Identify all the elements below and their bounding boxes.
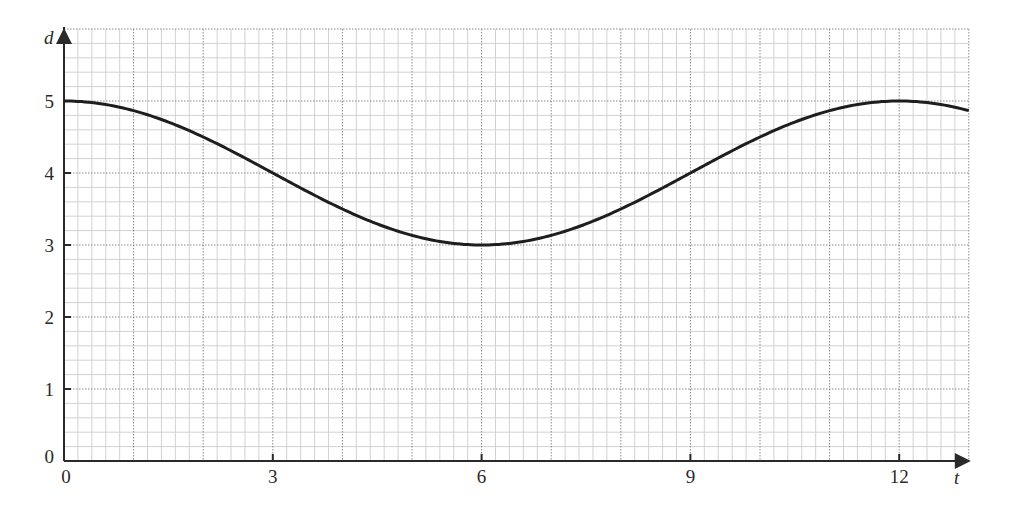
- y-axis-label: d: [44, 27, 54, 48]
- y-tick-label: 0: [45, 446, 55, 467]
- x-tick-label: 9: [686, 466, 696, 487]
- y-tick-label: 2: [45, 307, 55, 328]
- y-tick-label: 4: [45, 163, 55, 184]
- y-tick-label: 5: [45, 91, 55, 112]
- tick-labels: 036912012345: [45, 91, 909, 487]
- major-grid: [64, 29, 969, 461]
- x-tick-label: 0: [61, 466, 71, 487]
- x-tick-label: 12: [890, 466, 909, 487]
- x-tick-label: 3: [268, 466, 278, 487]
- y-axis-arrow-icon: [56, 28, 72, 44]
- y-tick-label: 1: [45, 379, 55, 400]
- x-tick-label: 6: [477, 466, 487, 487]
- y-tick-label: 3: [45, 235, 55, 256]
- x-axis-label: t: [954, 467, 960, 488]
- chart: 036912012345 d t: [0, 0, 1014, 522]
